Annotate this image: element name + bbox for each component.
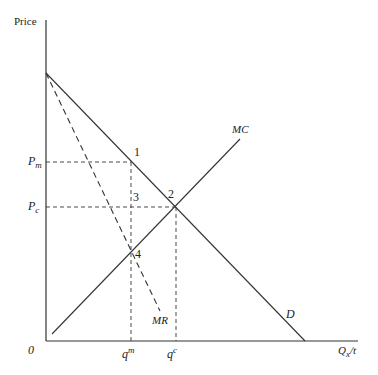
- origin-label: 0: [28, 344, 34, 356]
- point-2-label: 2: [168, 188, 174, 200]
- marginal-revenue-curve: [46, 73, 160, 311]
- price-label-pm: Pm: [28, 155, 42, 170]
- marginal-cost-curve: [52, 139, 240, 334]
- demand-label: D: [286, 308, 295, 320]
- quantity-label-qm: qm: [122, 346, 135, 360]
- price-label-pc: Pc: [28, 200, 39, 215]
- quantity-label-qc: qc: [167, 346, 177, 360]
- x-axis-label: Qx/t: [338, 345, 356, 359]
- mr-label: MR: [152, 315, 168, 326]
- mc-label: MC: [232, 124, 249, 135]
- point-3-label: 3: [133, 191, 139, 203]
- diagram-canvas: [0, 0, 378, 375]
- point-1-label: 1: [134, 146, 140, 158]
- monopoly-diagram: Price Pm Pc 0 qm qc Qx/t D MR MC 1 2 3 4: [0, 0, 378, 375]
- point-4-label: 4: [135, 248, 141, 260]
- y-axis-label: Price: [14, 16, 37, 27]
